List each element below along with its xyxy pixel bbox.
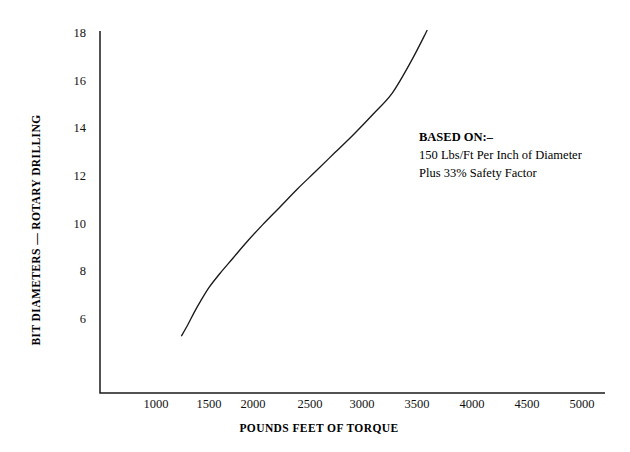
- y-tick-label: 16: [74, 74, 87, 88]
- chart-canvas: 18 16 14 12 10 8 6 1000 1500 2000 2500 3…: [0, 0, 630, 452]
- annotation-line-2: 150 Lbs/Ft Per Inch of Diameter: [419, 148, 583, 162]
- x-tick-label: 2500: [298, 397, 323, 411]
- y-tick-label: 14: [74, 121, 87, 135]
- based-on-annotation: BASED ON:– 150 Lbs/Ft Per Inch of Diamet…: [419, 130, 583, 180]
- chart-figure: 18 16 14 12 10 8 6 1000 1500 2000 2500 3…: [0, 0, 630, 452]
- x-tick-label: 1500: [197, 397, 222, 411]
- y-tick-label: 6: [80, 312, 86, 326]
- y-tick-label: 12: [74, 169, 87, 183]
- x-tick-label: 4000: [460, 397, 485, 411]
- x-tick-label: 3500: [405, 397, 430, 411]
- data-curve: [182, 31, 427, 336]
- y-tick-label: 10: [74, 217, 87, 231]
- annotation-line-3: Plus 33% Safety Factor: [419, 166, 538, 180]
- x-axis-title: POUNDS FEET OF TORQUE: [239, 422, 398, 434]
- x-tick-label: 2000: [241, 397, 266, 411]
- y-tick-label: 8: [80, 264, 86, 278]
- axis-lines: [100, 31, 605, 393]
- x-tick-label: 3000: [350, 397, 375, 411]
- x-tick-label: 5000: [570, 397, 595, 411]
- y-axis-title: BIT DIAMETERS — ROTARY DRILLING: [30, 115, 42, 346]
- x-tick-label: 1000: [144, 397, 169, 411]
- y-tick-label: 18: [74, 26, 87, 40]
- x-tick-label: 4500: [515, 397, 540, 411]
- annotation-line-1: BASED ON:–: [419, 130, 494, 144]
